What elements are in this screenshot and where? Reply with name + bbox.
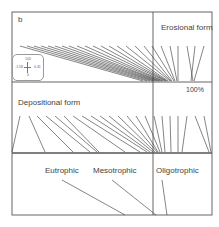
depositional-line <box>170 116 171 152</box>
depositional-lines <box>12 116 211 152</box>
diagram-canvas <box>0 0 219 227</box>
depositional-line <box>162 116 165 152</box>
trophic-line <box>62 180 125 215</box>
trophic-lines <box>62 180 167 215</box>
inset-legend-box: 100 -1.58 0.41 0 <box>12 54 44 81</box>
depositional-line <box>182 116 187 152</box>
depositional-line <box>12 116 20 152</box>
erosional-line <box>194 46 204 81</box>
outer-frame <box>12 12 212 215</box>
percent-label: 100% <box>186 86 204 93</box>
depositional-line <box>100 116 150 152</box>
erosional-line <box>48 46 155 81</box>
erosional-line <box>55 46 157 81</box>
depositional-line <box>118 116 155 152</box>
eutrophic-label: Eutrophic <box>45 167 79 175</box>
erosional-line <box>69 46 160 81</box>
depositional-form-label: Depositional form <box>18 99 80 107</box>
erosional-line <box>77 46 162 81</box>
oligotrophic-label: Oligotrophic <box>156 167 199 175</box>
mesotrophic-label: Mesotrophic <box>93 167 137 175</box>
depositional-line <box>64 116 99 152</box>
depositional-line <box>195 116 209 152</box>
erosional-line <box>187 46 193 81</box>
panel-letter: b <box>18 16 22 24</box>
inset-right-value: 0.41 <box>34 66 41 70</box>
erosional-form-label: Erosional form <box>161 24 213 32</box>
inset-bottom-value: 0 <box>27 74 29 78</box>
erosional-line <box>191 46 195 81</box>
frame <box>12 12 212 215</box>
trophic-line <box>162 180 167 215</box>
inset-cross-horizontal <box>24 67 31 68</box>
inset-top-value: 100 <box>25 58 31 62</box>
inset-left-value: -1.58 <box>15 66 23 70</box>
depositional-line <box>204 116 211 152</box>
erosional-lines <box>20 46 204 81</box>
trophic-line <box>112 180 156 215</box>
